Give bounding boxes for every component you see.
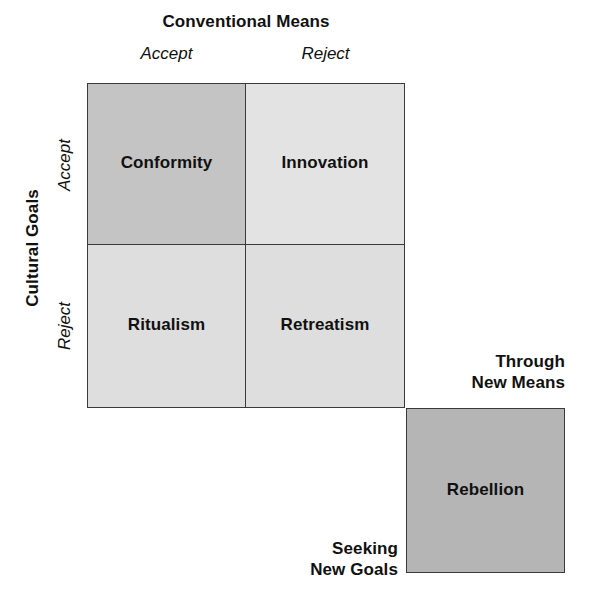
rebellion-cell: Rebellion (406, 408, 565, 573)
matrix-cell-conformity: Conformity (88, 84, 246, 245)
row-header-reject: Reject (55, 246, 75, 407)
through-new-means-line-1: Through (405, 352, 565, 373)
seeking-new-goals-line-2: New Goals (238, 560, 398, 581)
matrix-cell-label: Innovation (282, 153, 369, 173)
matrix-cell-retreatism: Retreatism (246, 245, 404, 407)
typology-matrix: Conformity Innovation Ritualism Retreati… (87, 83, 405, 408)
matrix-cell-innovation: Innovation (246, 84, 404, 245)
matrix-cell-label: Ritualism (128, 315, 205, 335)
column-header-accept: Accept (87, 44, 246, 64)
seeking-new-goals-label: Seeking New Goals (238, 539, 399, 580)
top-axis-title: Conventional Means (87, 12, 405, 32)
matrix-cell-ritualism: Ritualism (88, 245, 246, 407)
column-header-reject: Reject (246, 44, 405, 64)
matrix-cell-label: Retreatism (281, 315, 370, 335)
left-axis-title: Cultural Goals (23, 86, 43, 410)
rebellion-cell-label: Rebellion (447, 480, 524, 500)
through-new-means-line-2: New Means (405, 373, 565, 394)
matrix-cell-label: Conformity (121, 153, 213, 173)
through-new-means-label: Through New Means (405, 352, 566, 393)
merton-strain-theory-diagram: Conventional Means Accept Reject Cultura… (0, 0, 599, 603)
row-header-accept: Accept (55, 85, 75, 246)
seeking-new-goals-line-1: Seeking (238, 539, 398, 560)
